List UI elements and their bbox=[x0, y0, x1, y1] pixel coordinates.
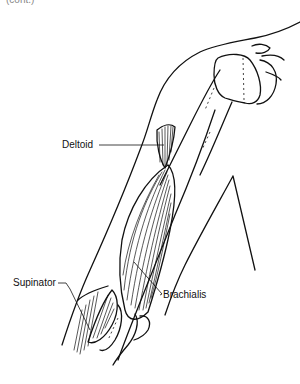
bone-dash-1 bbox=[205, 88, 214, 110]
arm-illustration: Deltoid Supinator Brachialis bbox=[0, 0, 300, 384]
label-deltoid: Deltoid bbox=[62, 139, 93, 150]
supinator-muscle bbox=[74, 286, 150, 365]
acromion bbox=[252, 44, 270, 53]
humerus-neck bbox=[243, 58, 244, 100]
humerus-head bbox=[214, 54, 261, 103]
label-brachialis: Brachialis bbox=[163, 289, 206, 300]
humerus-shaft-left bbox=[160, 70, 220, 185]
label-supinator: Supinator bbox=[13, 277, 56, 288]
supinator-leader bbox=[58, 283, 90, 330]
